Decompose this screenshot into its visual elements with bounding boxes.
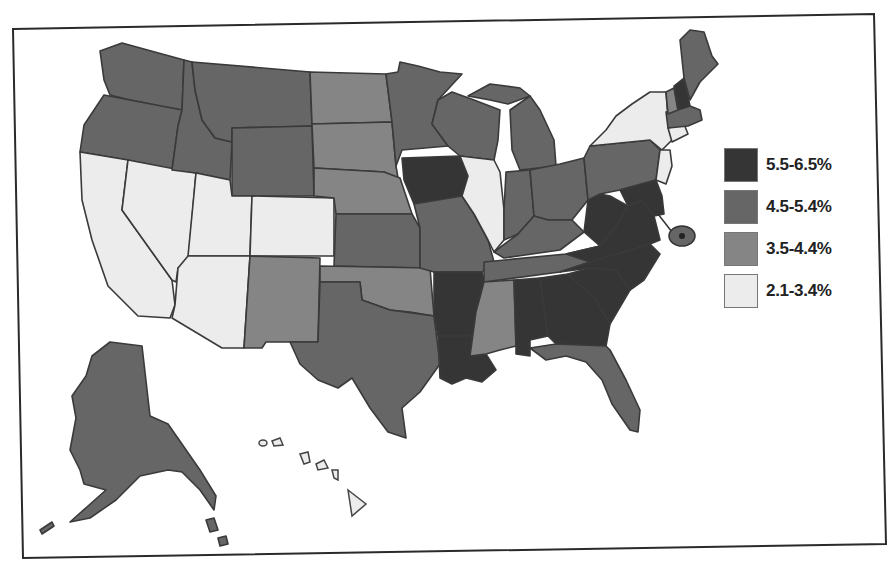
us-map xyxy=(40,30,718,546)
state-ak-island-3[interactable] xyxy=(218,536,228,546)
legend-item-2-1-3-4: 2.1-3.4% xyxy=(724,270,874,312)
legend-swatch-light xyxy=(724,274,758,308)
state-ak-island-2[interactable] xyxy=(206,518,218,532)
legend-item-4-5-5-4: 4.5-5.4% xyxy=(724,186,874,228)
legend-swatch-medium xyxy=(724,232,758,266)
legend-label: 3.5-4.4% xyxy=(766,239,832,259)
state-nm[interactable] xyxy=(244,256,320,348)
state-az[interactable] xyxy=(172,256,250,348)
state-nd[interactable] xyxy=(310,72,392,124)
legend-swatch-dark xyxy=(724,148,758,182)
state-wy[interactable] xyxy=(232,126,314,196)
state-co[interactable] xyxy=(250,196,334,256)
state-mi[interactable] xyxy=(510,96,556,170)
dc-dot xyxy=(679,233,685,239)
legend-label: 2.1-3.4% xyxy=(766,281,832,301)
state-ak-island[interactable] xyxy=(40,522,54,534)
state-hi[interactable] xyxy=(259,438,366,516)
state-fl[interactable] xyxy=(530,344,640,432)
legend-label: 5.5-6.5% xyxy=(766,155,832,175)
state-ny[interactable] xyxy=(590,92,672,150)
legend-item-5-5-6-5: 5.5-6.5% xyxy=(724,144,874,186)
legend-label: 4.5-5.4% xyxy=(766,197,832,217)
legend-swatch-medium-dark xyxy=(724,190,758,224)
state-ks[interactable] xyxy=(334,214,420,268)
map-legend: 5.5-6.5% 4.5-5.4% 3.5-4.4% 2.1-3.4% xyxy=(724,144,874,312)
dc-leader-line xyxy=(658,214,672,232)
state-ak[interactable] xyxy=(70,342,216,522)
legend-item-3-5-4-4: 3.5-4.4% xyxy=(724,228,874,270)
state-wi[interactable] xyxy=(432,92,500,160)
